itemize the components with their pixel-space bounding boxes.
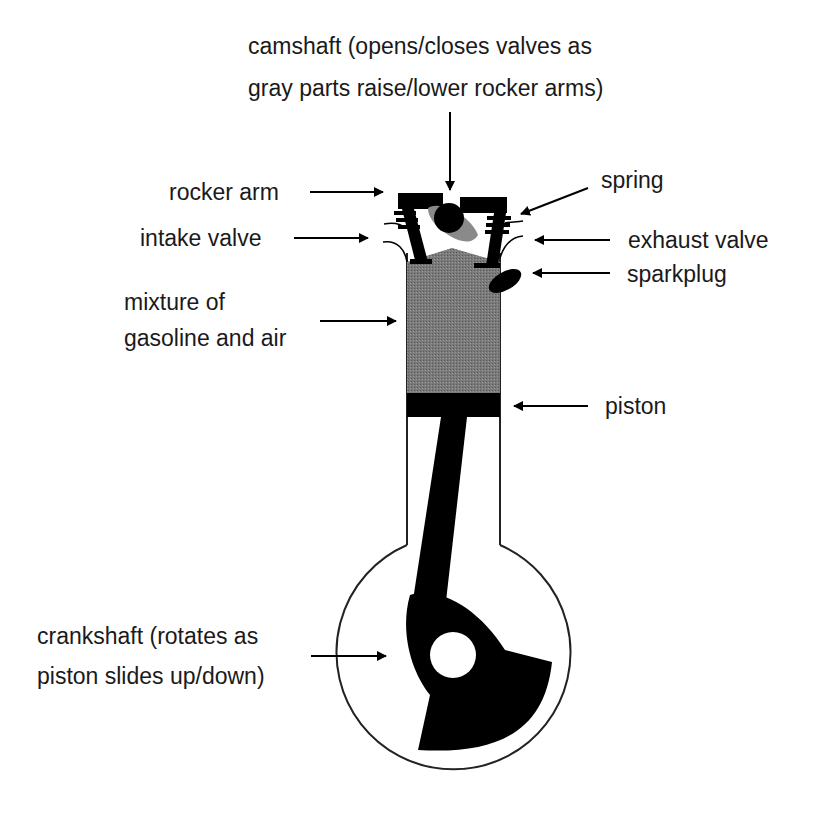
sparkplug-label: sparkplug (627, 258, 727, 291)
crankshaft-label-line2: piston slides up/down) (37, 660, 265, 693)
spring-label: spring (601, 164, 664, 197)
camshaft-label-line2: gray parts raise/lower rocker arms) (248, 72, 603, 105)
mixture-label-line1: mixture of (124, 286, 225, 319)
arrow-spring (521, 188, 588, 214)
engine-diagram: camshaft (opens/closes valves as gray pa… (0, 0, 826, 818)
crankshaft-label-line1: crankshaft (rotates as (37, 620, 258, 653)
crankshaft (406, 593, 552, 751)
exhaust-valve-label: exhaust valve (628, 224, 769, 257)
piston-body (407, 393, 500, 417)
camshaft-label-line1: camshaft (opens/closes valves as (248, 30, 592, 63)
engine-drawing (0, 0, 826, 818)
piston-label: piston (605, 390, 666, 423)
mixture-label-line2: gasoline and air (124, 322, 286, 355)
intake-valve-label: intake valve (140, 222, 261, 255)
fuel-air-mixture (407, 248, 500, 393)
connecting-rod (413, 417, 467, 610)
rocker-arm-label: rocker arm (169, 176, 279, 209)
